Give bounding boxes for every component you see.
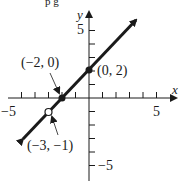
x-tick-label-neg5: −5: [1, 104, 16, 119]
x-tick-label-5: 5: [153, 104, 160, 119]
point-neg3-neg1-open: [45, 109, 52, 116]
point-label-neg3-neg1: (−3, −1): [27, 138, 73, 154]
y-axis-label: y: [75, 7, 83, 22]
pointer-arrow-neg3-neg1: [52, 117, 58, 135]
point-label-0-2: (0, 2): [97, 63, 128, 79]
coordinate-plane: p g y x 5 −5 −5 5 (−2, 0) (0, 2) (−3, −1…: [0, 0, 182, 181]
point-0-2: [86, 67, 93, 74]
y-tick-label-neg5: −5: [98, 158, 113, 173]
line-y-equals-x-plus-2: [23, 20, 136, 139]
x-axis-label: x: [171, 82, 178, 97]
pointer-arrow-neg2-0: [50, 73, 59, 93]
y-tick-label-5: 5: [77, 22, 84, 37]
point-neg2-0: [59, 95, 66, 102]
header-fragment: p g: [45, 0, 59, 7]
point-label-neg2-0: (−2, 0): [21, 55, 60, 71]
